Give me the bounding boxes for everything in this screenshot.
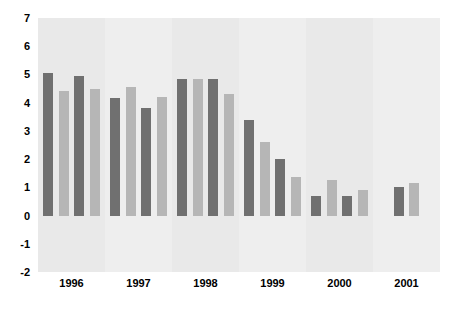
bar [327, 180, 337, 215]
x-axis-tick-label: 1997 [126, 278, 150, 289]
x-axis-tick-label: 1996 [59, 278, 83, 289]
category-band [306, 18, 373, 272]
bar [141, 108, 151, 215]
category-band [373, 18, 440, 272]
x-axis: 199619971998199920002001 [38, 278, 440, 300]
bar [208, 79, 218, 216]
bar [260, 142, 270, 215]
y-axis-tick-label: 1 [24, 182, 30, 193]
y-axis-tick-label: 4 [24, 97, 30, 108]
bar [157, 97, 167, 216]
x-axis-tick-label: 1998 [193, 278, 217, 289]
plot-area [38, 18, 440, 272]
bar [311, 196, 321, 216]
bar [193, 79, 203, 216]
y-axis-tick-label: -1 [20, 238, 30, 249]
bar [43, 73, 53, 216]
bar [126, 87, 136, 215]
bar [90, 89, 100, 216]
x-axis-tick-label: 2001 [394, 278, 418, 289]
y-axis-tick-label: 0 [24, 210, 30, 221]
y-axis-tick-label: -2 [20, 267, 30, 278]
bar [358, 190, 368, 215]
bar [342, 196, 352, 216]
y-axis-tick-label: 6 [24, 41, 30, 52]
y-axis-tick-label: 7 [24, 13, 30, 24]
bar [275, 159, 285, 215]
y-axis-tick-label: 3 [24, 125, 30, 136]
y-axis-tick-label: 5 [24, 69, 30, 80]
x-axis-tick-label: 1999 [260, 278, 284, 289]
bar-chart-figure: 76543210-1-2 199619971998199920002001 [0, 0, 459, 310]
bar [177, 79, 187, 216]
x-axis-tick-label: 2000 [327, 278, 351, 289]
bar [224, 94, 234, 215]
y-axis: 76543210-1-2 [0, 0, 38, 310]
y-axis-tick-label: 2 [24, 154, 30, 165]
bar [59, 91, 69, 215]
bar [409, 183, 419, 215]
bar [244, 120, 254, 216]
bar [74, 76, 84, 216]
bar [110, 98, 120, 215]
bar [291, 177, 301, 215]
bar [394, 187, 404, 215]
